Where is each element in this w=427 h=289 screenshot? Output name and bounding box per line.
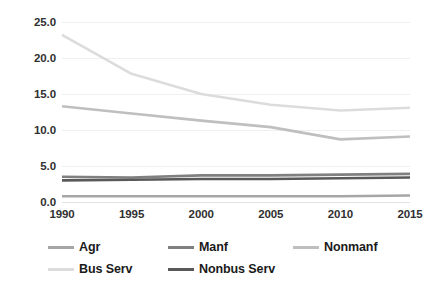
series-line-nonmanf — [62, 106, 410, 139]
x-axis-tick-label: 1995 — [102, 208, 162, 220]
legend-swatch-icon — [168, 246, 194, 249]
legend-swatch-icon — [48, 268, 74, 271]
y-axis-tick-label: 15.0 — [10, 88, 56, 100]
x-axis-tick-label: 2000 — [171, 208, 231, 220]
series-line-bus-serv — [62, 35, 410, 111]
legend-item-nonmanf[interactable]: Nonmanf — [293, 236, 418, 258]
x-axis-line — [62, 202, 410, 203]
legend-item-label: Nonmanf — [324, 240, 377, 254]
legend-item-manf[interactable]: Manf — [168, 236, 293, 258]
series-line-agr — [62, 196, 410, 197]
legend-swatch-icon — [293, 246, 319, 249]
x-axis-tick-label: 2005 — [241, 208, 301, 220]
y-axis-tick-label: 25.0 — [10, 16, 56, 28]
series-lines — [62, 22, 410, 202]
x-axis-tick-label: 2010 — [310, 208, 370, 220]
legend-item-bus-serv[interactable]: Bus Serv — [48, 258, 168, 280]
y-axis-tick-label: 20.0 — [10, 52, 56, 64]
legend-swatch-icon — [48, 246, 74, 249]
x-axis-tick-label: 2015 — [380, 208, 427, 220]
x-axis-tick-label: 1990 — [32, 208, 92, 220]
legend-item-label: Nonbus Serv — [199, 262, 275, 276]
legend-item-label: Bus Serv — [79, 262, 132, 276]
legend-item-nonbus-serv[interactable]: Nonbus Serv — [168, 258, 293, 280]
legend-swatch-icon — [168, 268, 194, 271]
y-axis-tick-label: 10.0 — [10, 124, 56, 136]
chart-legend: AgrManfNonmanfBus ServNonbus Serv — [48, 236, 418, 280]
y-axis-tick-label: 5.0 — [10, 160, 56, 172]
legend-item-label: Manf — [199, 240, 228, 254]
legend-item-label: Agr — [79, 240, 100, 254]
y-axis-tick-label: 0.0 — [10, 196, 56, 208]
plot-area — [62, 22, 410, 202]
legend-item-agr[interactable]: Agr — [48, 236, 168, 258]
